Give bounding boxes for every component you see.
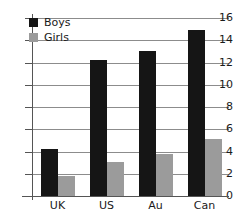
legend-label: Girls [44, 32, 69, 43]
bar-au-girls [156, 154, 173, 196]
bar-group [188, 18, 222, 196]
legend-item-boys: Boys [29, 16, 71, 29]
legend-item-girls: Girls [29, 31, 71, 44]
bar-uk-girls [58, 176, 75, 196]
bar-group [90, 18, 124, 196]
bar-chart: 0246810121416 UKUSAuCan BoysGirls [0, 0, 233, 219]
bar-can-boys [188, 30, 205, 196]
bar-us-boys [90, 60, 107, 196]
x-axis-tick-label-au: Au [131, 200, 181, 212]
x-axis-tick-label-us: US [82, 200, 132, 212]
bar-group [139, 18, 173, 196]
legend-swatch-girls-icon [29, 33, 38, 42]
chart-legend: BoysGirls [29, 16, 71, 46]
x-axis-line [22, 196, 229, 197]
bar-can-girls [205, 139, 222, 196]
x-axis-tick-label-can: Can [180, 200, 230, 212]
legend-swatch-boys-icon [29, 18, 38, 27]
bar-au-boys [139, 51, 156, 196]
bar-uk-boys [41, 149, 58, 196]
bar-us-girls [107, 162, 124, 196]
x-axis-tick-label-uk: UK [33, 200, 83, 212]
legend-label: Boys [44, 17, 71, 28]
